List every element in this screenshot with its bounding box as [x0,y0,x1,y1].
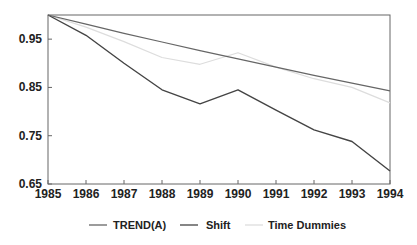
x-tick-label: 1994 [377,187,404,201]
plot-frame [48,15,390,184]
x-tick-label: 1988 [149,187,176,201]
x-tick-label: 1991 [263,187,290,201]
y-tick-label: 0.75 [19,129,43,143]
y-axis: 0.650.750.850.95 [19,32,52,191]
series-line-time-dummies [48,15,390,103]
line-chart: 0.650.750.850.95 19851986198719881989199… [0,0,417,245]
x-axis: 1985198619871988198919901991199219931994 [35,180,404,201]
legend-label: Time Dummies [268,219,346,231]
y-tick-label: 0.95 [19,32,43,46]
x-tick-label: 1993 [339,187,366,201]
x-tick-label: 1986 [73,187,100,201]
series-line-trend-a- [48,15,390,91]
legend-label: Shift [206,219,231,231]
x-tick-label: 1987 [111,187,138,201]
x-tick-label: 1990 [225,187,252,201]
x-tick-label: 1992 [301,187,328,201]
legend-label: TREND(A) [113,219,166,231]
series-line-shift [48,15,390,171]
y-tick-label: 0.85 [19,80,43,94]
series-lines [48,15,390,171]
legend: TREND(A)ShiftTime Dummies [89,219,346,231]
x-tick-label: 1985 [35,187,62,201]
x-tick-label: 1989 [187,187,214,201]
